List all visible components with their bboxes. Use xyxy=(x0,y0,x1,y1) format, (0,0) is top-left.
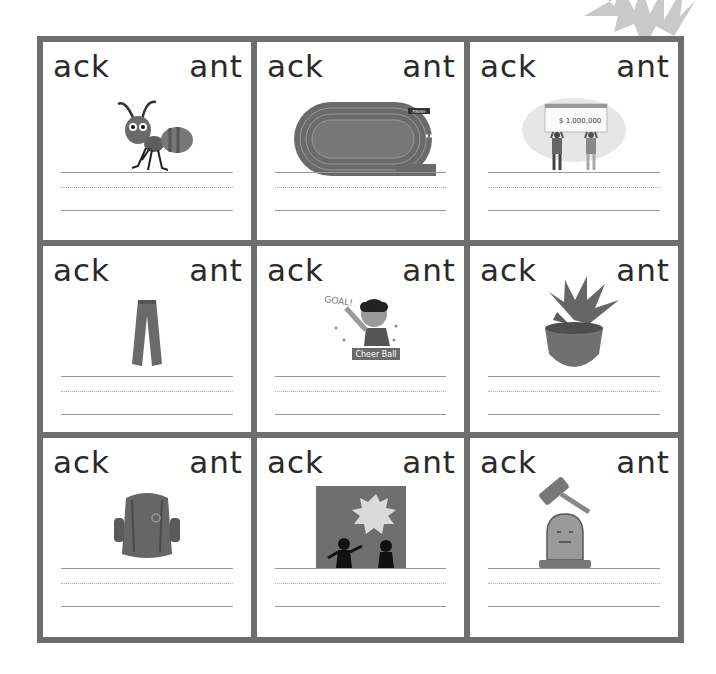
backpack-icon xyxy=(82,484,212,572)
writing-guide-dotted xyxy=(488,391,660,392)
potted-plant-icon xyxy=(509,272,639,380)
word-choice-ant[interactable]: ant xyxy=(402,48,456,84)
writing-line xyxy=(275,376,446,377)
word-card-attack: ack ant xyxy=(257,438,464,637)
writing-line xyxy=(275,210,446,211)
word-card-pants: ack ant xyxy=(43,246,251,432)
word-card-backpack: ack ant xyxy=(43,438,251,637)
writing-line xyxy=(275,172,446,173)
word-choice-ant[interactable]: ant xyxy=(189,48,243,84)
writing-guide-dotted xyxy=(61,391,233,392)
writing-guide-dotted xyxy=(275,583,446,584)
svg-text:Cheer Ball: Cheer Ball xyxy=(355,350,396,359)
svg-text:FINISH: FINISH xyxy=(412,109,425,114)
attack-scene-icon xyxy=(316,486,406,568)
word-choice-ant[interactable]: ant xyxy=(616,48,670,84)
word-choice-ack[interactable]: ack xyxy=(267,252,324,288)
word-choice-ack[interactable]: ack xyxy=(53,444,110,480)
word-card-track: ack ant FINISH xyxy=(257,42,464,240)
running-track-icon: FINISH xyxy=(276,90,446,178)
writing-line xyxy=(488,606,660,607)
word-card-plant: ack ant xyxy=(470,246,678,432)
cheering-fan-icon: GOAL! Cheer Ball xyxy=(296,288,426,376)
writing-line xyxy=(488,210,660,211)
writing-line xyxy=(61,568,233,569)
word-choice-ant[interactable]: ant xyxy=(189,444,243,480)
word-choice-ant[interactable]: ant xyxy=(402,444,456,480)
word-card-cheer: ack ant GOAL! Cheer Ball xyxy=(257,246,464,432)
writing-guide-dotted xyxy=(488,187,660,188)
writing-guide-dotted xyxy=(61,187,233,188)
worksheet-grid: ack ant ack ant xyxy=(37,36,684,643)
writing-line xyxy=(275,568,446,569)
writing-line xyxy=(61,606,233,607)
word-choice-ack[interactable]: ack xyxy=(267,444,324,480)
writing-line xyxy=(488,414,660,415)
writing-line xyxy=(61,376,233,377)
writing-line xyxy=(61,414,233,415)
writing-line xyxy=(61,210,233,211)
word-choice-ant[interactable]: ant xyxy=(402,252,456,288)
svg-text:GOAL!: GOAL! xyxy=(323,294,353,308)
word-card-gavel-tombstone: ack ant xyxy=(470,438,678,637)
writing-line xyxy=(275,606,446,607)
word-choice-ack[interactable]: ack xyxy=(53,252,110,288)
pants-icon xyxy=(82,288,212,376)
writing-guide-dotted xyxy=(275,187,446,188)
word-card-ant: ack ant xyxy=(43,42,251,240)
word-choice-ack[interactable]: ack xyxy=(53,48,110,84)
svg-text:$ 1,000,000: $ 1,000,000 xyxy=(559,117,601,125)
gavel-tombstone-icon xyxy=(509,464,639,572)
writing-line xyxy=(488,376,660,377)
writing-line xyxy=(488,568,660,569)
word-card-check: ack ant $ 1,000,000 xyxy=(470,42,678,240)
word-choice-ack[interactable]: ack xyxy=(267,48,324,84)
writing-line xyxy=(275,414,446,415)
writing-guide-dotted xyxy=(275,391,446,392)
writing-guide-dotted xyxy=(61,583,233,584)
ant-icon xyxy=(82,90,212,178)
word-choice-ack[interactable]: ack xyxy=(480,48,537,84)
giant-check-icon: $ 1,000,000 xyxy=(509,90,639,178)
word-choice-ant[interactable]: ant xyxy=(189,252,243,288)
writing-line xyxy=(488,172,660,173)
writing-guide-dotted xyxy=(488,583,660,584)
writing-line xyxy=(61,172,233,173)
